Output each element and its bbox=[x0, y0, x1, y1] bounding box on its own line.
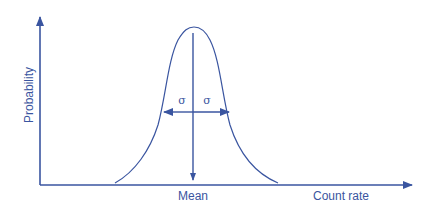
mean-label: Mean bbox=[178, 189, 208, 203]
gaussian-diagram: σ σ Mean Count rate Probability bbox=[0, 0, 438, 213]
bell-curve bbox=[115, 27, 278, 183]
y-axis-label: Probability bbox=[22, 67, 36, 123]
x-axis-label: Count rate bbox=[313, 189, 369, 203]
sigma-right-label: σ bbox=[203, 94, 211, 107]
diagram-canvas: σ σ Mean Count rate Probability bbox=[0, 0, 438, 213]
sigma-left-label: σ bbox=[178, 94, 186, 107]
